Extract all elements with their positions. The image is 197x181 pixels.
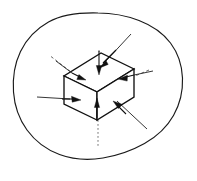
stress-element-diagram bbox=[0, 0, 197, 181]
caption-partial bbox=[0, 172, 197, 181]
figure-container bbox=[0, 0, 197, 181]
